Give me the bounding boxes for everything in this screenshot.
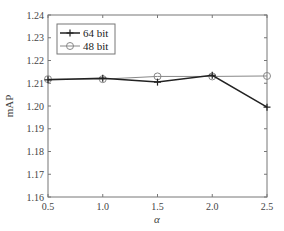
data-series [45,72,271,111]
y-tick-label: 1.22 [27,55,45,66]
y-tick-label: 1.18 [27,146,45,157]
x-axis-label: α [154,213,160,225]
y-tick-label: 1.24 [27,10,45,21]
legend-label: 64 bit [83,27,108,39]
series-64-bit [45,72,271,111]
legend: 64 bit48 bit [57,24,115,54]
y-tick-label: 1.21 [27,78,45,89]
x-tick-label: 2.0 [206,201,219,212]
y-tick-label: 1.17 [27,169,45,180]
y-tick-label: 1.20 [27,101,45,112]
x-tick-label: 0.5 [42,201,55,212]
x-tick-label: 1.5 [151,201,164,212]
y-axis-label: mAP [3,95,15,118]
x-tick-label: 1.0 [97,201,110,212]
y-tick-label: 1.23 [27,32,45,43]
legend-label: 48 bit [83,40,108,52]
x-tick-label: 2.5 [261,201,274,212]
line-chart: 1.161.171.181.191.201.211.221.231.24 0.5… [0,0,284,231]
y-tick-label: 1.19 [27,123,45,134]
